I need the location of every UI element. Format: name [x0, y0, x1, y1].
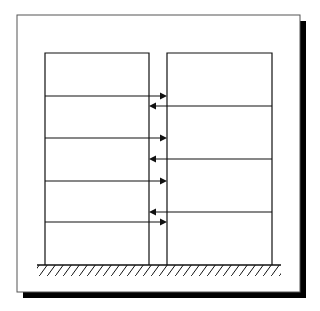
- frame-border: [17, 15, 300, 292]
- diagram-canvas: [0, 0, 320, 311]
- frame: [17, 15, 306, 298]
- ground-hatch: [37, 265, 281, 276]
- ground: [37, 265, 281, 276]
